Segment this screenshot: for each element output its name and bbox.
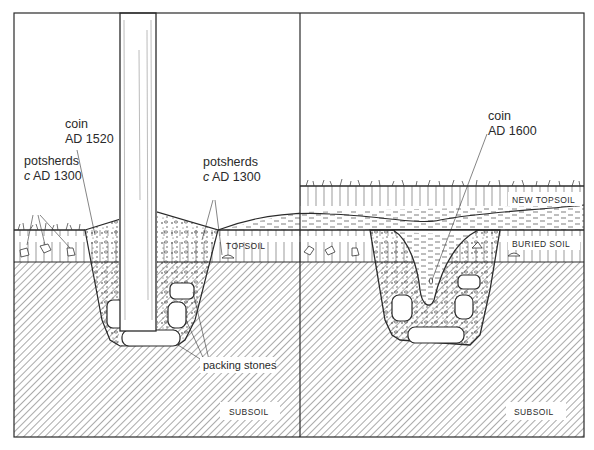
packing-stones-label: packing stones: [203, 359, 277, 371]
packing-stone: [458, 275, 480, 289]
packing-stone: [392, 295, 412, 321]
right-potsherds-label-line1: potsherds: [203, 155, 258, 169]
potsherd-icon: [20, 248, 29, 257]
new-topsoil-label: NEW TOPSOIL: [512, 195, 575, 205]
packing-stone: [455, 295, 473, 319]
right-potsherds-label-line2: c AD 1300: [203, 170, 261, 184]
buried-soil-label: BURIED SOIL: [512, 239, 570, 249]
packing-stone: [408, 327, 464, 343]
potsherds-date: AD 1300: [30, 169, 81, 183]
packing-stone: [168, 302, 186, 328]
topsoil-label: TOPSOIL: [226, 241, 266, 251]
left-coin-label-line2: AD 1520: [65, 132, 114, 146]
right-coin-label-line1: coin: [488, 109, 511, 123]
wooden-post: [120, 13, 156, 331]
left-coin-label-line1: coin: [65, 117, 88, 131]
left-potsherds-label-line1: potsherds: [24, 154, 79, 168]
coin-icon: [429, 278, 432, 284]
post-hole-section-diagram: coin AD 1520 potsherds c AD 1300 potsher…: [0, 0, 594, 450]
packing-stone: [170, 283, 194, 299]
left-subsoil-label: SUBSOIL: [229, 407, 269, 417]
left-potsherds-label-line2: c AD 1300: [24, 169, 82, 183]
potsherds-date: AD 1300: [209, 170, 260, 184]
right-subsoil-label: SUBSOIL: [514, 407, 554, 417]
right-coin-label-line2: AD 1600: [488, 124, 537, 138]
packing-stone: [122, 330, 180, 346]
